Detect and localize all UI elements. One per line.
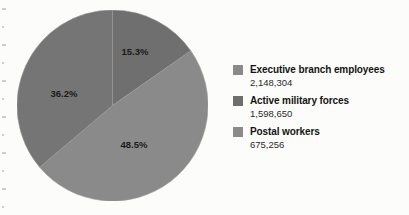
scan-tick bbox=[2, 116, 6, 118]
scan-tick bbox=[2, 8, 6, 10]
scan-tick bbox=[2, 134, 4, 136]
pie-slice-percent-label: 36.2% bbox=[51, 88, 78, 99]
scan-tick bbox=[2, 98, 4, 100]
legend-item-postal-workers[interactable]: Postal workers 675,256 bbox=[233, 126, 407, 150]
legend-item-active-military-forces[interactable]: Active military forces 1,598,650 bbox=[233, 95, 407, 119]
legend-item-value: 1,598,650 bbox=[250, 108, 349, 119]
legend-swatch-icon bbox=[233, 96, 243, 106]
legend-item-label: Postal workers bbox=[250, 126, 320, 138]
scan-tick bbox=[2, 188, 6, 190]
legend-item-label: Active military forces bbox=[250, 95, 349, 107]
legend-swatch-icon bbox=[233, 127, 243, 137]
legend-text: Postal workers 675,256 bbox=[250, 126, 320, 150]
legend-item-label: Executive branch employees bbox=[250, 64, 385, 76]
chart-page: 15.3% 48.5% 36.2% Executive branch emplo… bbox=[0, 0, 409, 215]
legend-text: Active military forces 1,598,650 bbox=[250, 95, 349, 119]
pie-chart: 15.3% 48.5% 36.2% bbox=[17, 10, 208, 201]
scan-tick bbox=[2, 206, 4, 208]
pie-slice-percent-label: 15.3% bbox=[122, 46, 149, 57]
scan-tick bbox=[2, 62, 4, 64]
scan-artifact-margin bbox=[2, 8, 8, 208]
scan-tick bbox=[2, 152, 6, 154]
pie-chart-svg: 15.3% 48.5% 36.2% bbox=[17, 10, 208, 201]
scan-tick bbox=[2, 44, 6, 46]
legend-item-value: 2,148,304 bbox=[250, 77, 385, 88]
scan-tick bbox=[2, 80, 6, 82]
scan-tick bbox=[2, 26, 4, 28]
legend-swatch-icon bbox=[233, 65, 243, 75]
scan-tick bbox=[2, 170, 4, 172]
legend-text: Executive branch employees 2,148,304 bbox=[250, 64, 385, 88]
legend-item-value: 675,256 bbox=[250, 139, 320, 150]
chart-legend: Executive branch employees 2,148,304 Act… bbox=[233, 64, 407, 150]
legend-item-executive-branch-employees[interactable]: Executive branch employees 2,148,304 bbox=[233, 64, 407, 88]
pie-slice-group bbox=[17, 10, 208, 201]
pie-slice-percent-label: 48.5% bbox=[121, 139, 148, 150]
